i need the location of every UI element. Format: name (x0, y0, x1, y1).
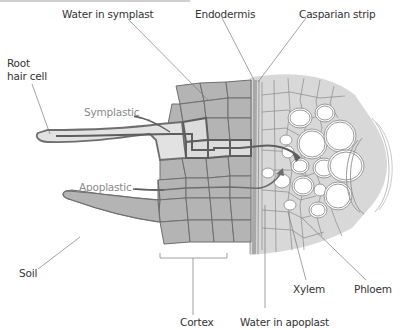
label-casparian-strip: Casparian strip (299, 8, 375, 20)
label-soil: Soil (19, 267, 37, 279)
cortex-cells (158, 80, 251, 244)
root-water-transport-diagram: Water in symplast Endodermis Casparian s… (0, 0, 402, 330)
label-endodermis: Endodermis (195, 8, 255, 20)
label-water-in-symplast: Water in symplast (62, 8, 153, 20)
label-cortex: Cortex (180, 316, 213, 328)
cropped-caption-fragment (0, 0, 190, 2)
label-water-in-apoplast: Water in apoplast (240, 316, 329, 328)
label-phloem: Phloem (354, 283, 392, 295)
label-symplastic-pathway: Symplastic (84, 106, 139, 118)
label-xylem: Xylem (293, 283, 325, 295)
label-root-hair-cell-line2: hair cell (7, 70, 47, 82)
label-root-hair-cell-line1: Root (7, 57, 30, 69)
diagram-canvas (0, 0, 402, 330)
label-apoplastic-pathway: Apoplastic (79, 181, 132, 193)
